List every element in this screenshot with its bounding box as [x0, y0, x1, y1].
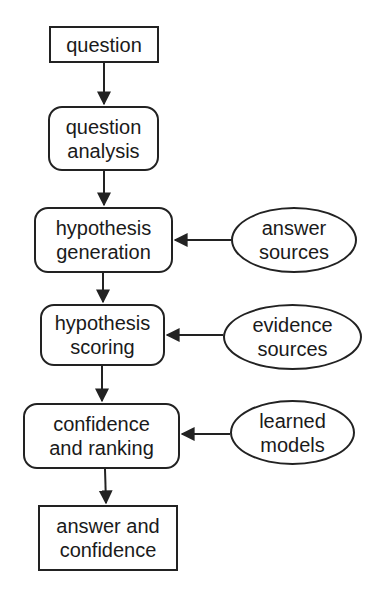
node-label: confidence and ranking	[49, 412, 154, 460]
edge-ranking-to-answer	[105, 469, 106, 503]
node-learned-models: learned models	[230, 400, 355, 465]
node-label: question analysis	[66, 115, 142, 163]
node-hypothesis-scoring: hypothesis scoring	[40, 304, 165, 366]
node-hypothesis-generation: hypothesis generation	[34, 207, 173, 273]
node-label: answer and confidence	[56, 514, 159, 562]
node-label: hypothesis generation	[56, 216, 152, 264]
node-question-analysis: question analysis	[48, 106, 159, 171]
node-label: hypothesis scoring	[55, 311, 151, 359]
node-label: evidence sources	[252, 313, 332, 361]
node-answer-confidence: answer and confidence	[38, 505, 178, 571]
node-evidence-sources: evidence sources	[223, 304, 362, 370]
node-question: question	[49, 26, 159, 63]
node-confidence-ranking: confidence and ranking	[23, 403, 180, 469]
node-label: answer sources	[259, 216, 329, 264]
node-answer-sources: answer sources	[231, 207, 357, 273]
node-label: learned models	[259, 409, 326, 457]
node-label: question	[66, 33, 142, 57]
